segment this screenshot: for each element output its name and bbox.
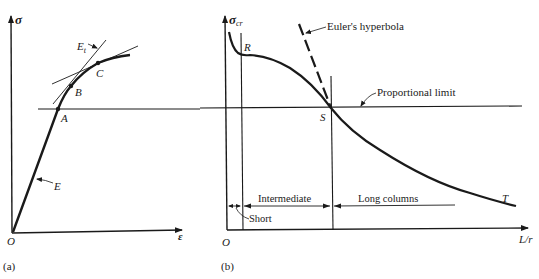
point-t-label: T [502, 192, 509, 204]
point-r-label: R [243, 41, 251, 53]
euler-hyperbola-curve [299, 24, 331, 108]
tangent-line-shallow [52, 46, 138, 84]
origin-label-a: O [7, 235, 15, 247]
boundary-intermediate-long [331, 76, 333, 230]
tangent-modulus-pointer [88, 44, 97, 48]
panel-b: σcr L/r O R S T Euler's hyperbola Propor… [200, 12, 533, 273]
boundary-short-intermediate [241, 33, 243, 230]
point-s-label: S [320, 111, 326, 123]
point-a-label: A [60, 112, 68, 124]
critical-stress-curve [229, 32, 516, 206]
origin-label-b: O [222, 236, 230, 248]
intermediate-arrowhead-left [244, 204, 251, 209]
euler-label-pointer [306, 27, 326, 33]
sigma-cr-axis [225, 16, 227, 230]
point-b-label: B [75, 86, 82, 98]
intermediate-arrowhead-right [323, 204, 330, 209]
panel-a: σ ε O A B C Et E (a) [3, 12, 200, 273]
strain-axis [12, 230, 182, 233]
elastic-modulus-label: E [53, 180, 61, 192]
point-c-marker [96, 61, 100, 65]
proportional-limit-line-b [200, 106, 522, 108]
caption-a: (a) [3, 260, 16, 273]
long-columns-region-label: Long columns [358, 193, 418, 204]
short-arrowhead-left [228, 204, 233, 208]
euler-hyperbola-label: Euler's hyperbola [327, 20, 404, 32]
short-arrowhead-right [236, 204, 241, 208]
point-b-marker [69, 84, 73, 88]
point-c-label: C [96, 67, 104, 79]
caption-b: (b) [221, 260, 234, 273]
column-buckling-diagram: σ ε O A B C Et E (a) σcr L/r O [0, 0, 539, 279]
proportional-limit-pointer [361, 93, 376, 106]
slenderness-axis-label: L/r [518, 233, 533, 245]
short-region-label: Short [249, 213, 272, 224]
point-a-marker [56, 107, 60, 111]
long-region-arrow [334, 205, 455, 206]
sigma-axis [11, 16, 12, 233]
tangent-modulus-label: Et [76, 40, 87, 55]
elastic-modulus-pointer [37, 179, 53, 183]
sigma-cr-axis-label: σcr [229, 12, 244, 28]
long-arrowhead-left [334, 204, 341, 209]
sigma-axis-label: σ [15, 12, 23, 27]
strain-axis-label: ε [178, 230, 183, 242]
proportional-limit-label: Proportional limit [377, 86, 456, 98]
slenderness-axis [227, 228, 528, 230]
intermediate-region-label: Intermediate [258, 193, 311, 204]
